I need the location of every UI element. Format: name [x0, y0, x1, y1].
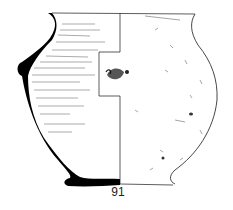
section-profile [18, 13, 121, 186]
figure-number: 91 [106, 185, 130, 199]
center-divider [99, 13, 120, 184]
exterior-outline [170, 14, 217, 184]
exterior-texture [135, 16, 202, 170]
rim-line [52, 13, 195, 14]
interior-hatching [32, 24, 105, 132]
stamp-motif [106, 68, 129, 79]
pit-mark [162, 157, 165, 160]
pottery-drawing [0, 0, 233, 210]
pit-mark [189, 113, 193, 116]
